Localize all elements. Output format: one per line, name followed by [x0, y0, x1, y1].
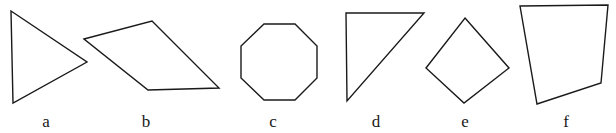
polygon-figure: a b c d e f — [0, 0, 616, 133]
shape-f-trapezoid — [520, 5, 608, 104]
shape-f-label: f — [563, 112, 569, 131]
shape-d-label: d — [372, 112, 381, 131]
shape-a-triangle — [11, 11, 87, 103]
shape-c-label: c — [269, 112, 277, 131]
shape-a-label: a — [42, 112, 50, 131]
shape-b-label: b — [142, 112, 151, 131]
shape-b-quadrilateral — [84, 21, 219, 90]
figure-canvas: a b c d e f — [0, 0, 616, 133]
shape-c-octagon — [241, 24, 317, 100]
shape-d-right-triangle — [346, 13, 424, 101]
shape-e-label: e — [461, 112, 469, 131]
shape-e-diamond — [426, 18, 509, 103]
